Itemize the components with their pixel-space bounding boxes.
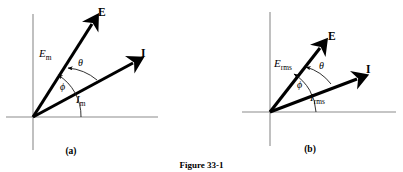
phasor-diagram-figure: E I Em Im θ ϕ (a) <box>0 0 403 172</box>
emf-magnitude-label: Erms <box>273 57 292 72</box>
panel-b: E I Erms Irms θ ϕ (b) <box>200 0 403 158</box>
figure-caption: Figure 33-1 <box>0 158 403 172</box>
emf-magnitude-subscript: rms <box>281 63 292 72</box>
panel-a: E I Em Im θ ϕ (a) <box>0 0 200 158</box>
current-vector-label: I <box>141 47 146 59</box>
phi-label: ϕ <box>60 81 65 92</box>
theta-label: θ <box>78 57 83 68</box>
panel-a-subcaption: (a) <box>65 146 76 157</box>
panel-b-subcaption: (b) <box>304 144 316 155</box>
emf-magnitude-label: Em <box>38 47 52 62</box>
phi-label: ϕ <box>297 79 302 90</box>
emf-vector-label: E <box>328 30 336 42</box>
current-vector-label: I <box>366 63 371 75</box>
emf-vector-label: E <box>98 6 106 18</box>
theta-arc <box>68 68 97 80</box>
current-magnitude-subscript: rms <box>314 97 325 106</box>
current-magnitude-subscript: m <box>80 99 86 108</box>
current-magnitude-label: Im <box>75 93 86 108</box>
emf-magnitude-subscript: m <box>46 53 52 62</box>
theta-label: θ <box>319 60 324 71</box>
